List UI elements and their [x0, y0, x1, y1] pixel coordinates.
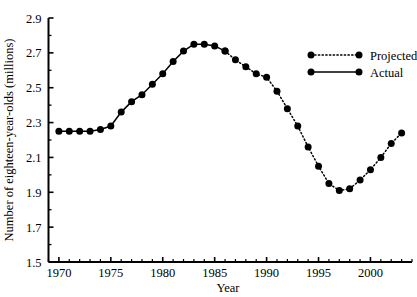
line-chart: 1.51.71.92.12.32.52.72.9 197019751980198… — [0, 0, 417, 297]
data-point — [170, 58, 177, 65]
data-point — [76, 128, 83, 135]
data-point — [388, 140, 395, 147]
y-axis-tick-label: 2.9 — [26, 12, 42, 26]
x-axis-tick-label: 2000 — [358, 266, 383, 280]
data-point — [66, 128, 73, 135]
chart-legend: ProjectedActual — [308, 49, 417, 80]
data-point — [315, 163, 322, 170]
x-axis: 1970197519801985199019952000 — [46, 257, 412, 280]
data-point — [97, 126, 104, 133]
data-point — [107, 123, 114, 130]
data-point — [284, 105, 291, 112]
data-point — [398, 130, 405, 137]
y-axis-tick-label: 2.7 — [26, 46, 42, 60]
legend-label-projected: Projected — [370, 49, 417, 63]
data-point — [367, 166, 374, 173]
legend-marker — [308, 52, 315, 59]
data-point — [190, 41, 197, 48]
legend-label-actual: Actual — [370, 66, 404, 80]
x-axis-tick-label: 1990 — [254, 266, 279, 280]
x-axis-tick-label: 1985 — [202, 266, 227, 280]
data-point — [232, 56, 239, 63]
data-point — [201, 41, 208, 48]
y-axis-tick-label: 1.7 — [26, 221, 42, 235]
data-point — [128, 98, 135, 105]
data-point — [242, 63, 249, 70]
data-point — [263, 74, 270, 81]
data-point — [346, 185, 353, 192]
data-point — [149, 81, 156, 88]
y-axis: 1.51.71.92.12.32.52.72.9 — [26, 12, 54, 270]
data-point — [211, 42, 218, 49]
data-point — [55, 128, 62, 135]
x-axis-tick-label: 1980 — [150, 266, 175, 280]
legend-marker — [356, 69, 363, 76]
data-point — [273, 88, 280, 95]
y-axis-title: Number of eighteen-year-olds (millions) — [2, 39, 16, 242]
x-axis-tick-label: 1970 — [46, 266, 71, 280]
legend-marker — [356, 52, 363, 59]
y-axis-tick-label: 2.3 — [26, 116, 42, 130]
data-point — [180, 48, 187, 55]
data-point — [357, 177, 364, 184]
data-point — [118, 109, 125, 116]
series-line-actual — [59, 44, 225, 131]
data-point — [138, 91, 145, 98]
data-point — [325, 180, 332, 187]
data-series-group — [55, 41, 405, 194]
y-axis-tick-label: 1.9 — [26, 186, 42, 200]
data-point — [336, 187, 343, 194]
data-point — [87, 128, 94, 135]
data-point — [253, 70, 260, 77]
chart-container: 1.51.71.92.12.32.52.72.9 197019751980198… — [0, 0, 417, 297]
data-point — [377, 154, 384, 161]
data-point — [159, 70, 166, 77]
data-point — [294, 123, 301, 130]
y-axis-tick-label: 2.1 — [26, 151, 42, 165]
y-axis-tick-label: 1.5 — [26, 256, 42, 270]
y-axis-tick-label: 2.5 — [26, 81, 42, 95]
x-axis-title: Year — [216, 281, 240, 295]
x-axis-tick-label: 1995 — [306, 266, 331, 280]
data-point — [305, 143, 312, 150]
x-axis-tick-label: 1975 — [98, 266, 123, 280]
data-point — [222, 48, 229, 55]
legend-marker — [308, 69, 315, 76]
